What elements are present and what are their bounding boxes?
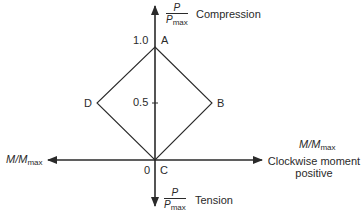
top-axis-fraction: P Pmax bbox=[166, 3, 188, 28]
clockwise-moment-label: Clockwise moment bbox=[266, 155, 362, 167]
left-axis-label: M/Mmax bbox=[6, 153, 43, 169]
bottom-axis-fraction: P Pmax bbox=[164, 188, 186, 213]
tick-label-0-5: 0.5 bbox=[133, 96, 148, 108]
right-axis-label: M/Mmax bbox=[299, 138, 336, 154]
diagram-canvas bbox=[0, 0, 362, 214]
tick-label-1-0: 1.0 bbox=[133, 34, 148, 46]
compression-label: Compression bbox=[196, 8, 261, 20]
tick-label-0: 0 bbox=[144, 164, 150, 176]
point-label-c: C bbox=[160, 164, 168, 176]
tension-label: Tension bbox=[195, 194, 233, 206]
point-label-a: A bbox=[161, 34, 168, 46]
positive-label: positive bbox=[266, 167, 362, 179]
point-label-d: D bbox=[84, 97, 92, 109]
point-label-b: B bbox=[217, 97, 224, 109]
